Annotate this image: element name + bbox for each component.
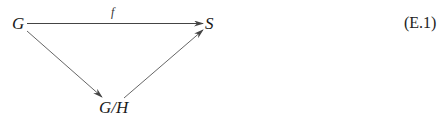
diagram-arrows (0, 0, 444, 123)
edge-label-f: f (111, 6, 114, 18)
node-g: G (12, 15, 24, 32)
arrow-g-to-gh (27, 31, 102, 97)
node-s: S (205, 15, 214, 32)
node-g-over-h: G/H (99, 99, 128, 116)
equation-number: (E.1) (404, 15, 436, 31)
arrow-gh-to-s (124, 30, 203, 98)
